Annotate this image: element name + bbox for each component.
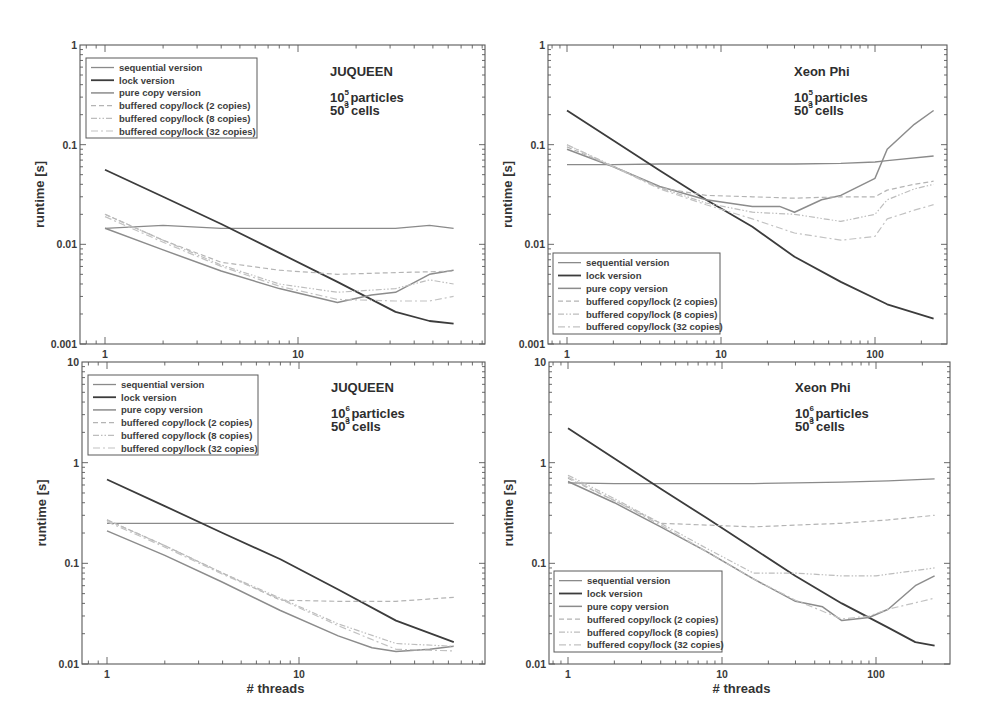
series-line-2 — [105, 228, 454, 302]
legend-label: buffered copy/lock (2 copies) — [121, 417, 252, 428]
y-axis-title: runtime [s] — [500, 161, 515, 228]
legend-label: buffered copy/lock (32 copies) — [587, 639, 724, 650]
legend-label: pure copy version — [586, 283, 668, 294]
panel-juqueen-1e5: 0.0010.010.11110runtime [s]sequential ve… — [32, 39, 485, 360]
panel-juqueen-1e6: 0.010.1110110runtime [s]# threadssequent… — [34, 356, 485, 696]
legend-label: sequential version — [587, 575, 671, 586]
panel-xeonphi-1e5: 0.0010.010.11110100runtime [s]sequential… — [500, 39, 947, 360]
x-axis-title: # threads — [247, 681, 305, 696]
series-line-0 — [105, 225, 454, 228]
panel-annotation: Xeon Phi1063particles503cells — [795, 380, 869, 434]
panel-xeonphi-1e6: 0.010.1110110100runtime [s]# threadssequ… — [501, 356, 950, 696]
y-tick-label: 10 — [67, 356, 79, 368]
y-axis-title: runtime [s] — [501, 479, 516, 546]
y-tick-label: 1 — [73, 457, 79, 469]
series-group — [105, 170, 454, 324]
legend-label: sequential version — [586, 257, 670, 268]
series-line-0 — [567, 156, 934, 165]
panel-annotation: Xeon Phi1053particles503cells — [794, 64, 868, 118]
legend: sequential versionlock versionpure copy … — [88, 375, 258, 455]
machine-name: JUQUEEN — [331, 380, 394, 395]
series-line-5 — [107, 522, 454, 651]
legend-label: lock version — [121, 392, 177, 403]
y-tick-label: 1 — [540, 457, 546, 469]
x-axis-title: # threads — [713, 681, 771, 696]
machine-name: Xeon Phi — [795, 380, 851, 395]
legend-label: buffered copy/lock (2 copies) — [587, 614, 718, 625]
machine-name: JUQUEEN — [330, 64, 393, 79]
legend-label: buffered copy/lock (32 copies) — [586, 321, 723, 332]
x-tick-label: 10 — [715, 348, 727, 360]
x-tick-label: 1 — [565, 668, 571, 680]
cells-label: 503cells — [330, 101, 380, 118]
cells-label: 503cells — [331, 417, 381, 434]
figure-canvas: 0.0010.010.11110runtime [s]sequential ve… — [0, 0, 987, 725]
series-line-2 — [107, 531, 454, 652]
y-tick-label: 0.1 — [62, 139, 77, 151]
legend: sequential versionlock versionpure copy … — [554, 571, 724, 652]
series-line-3 — [105, 214, 454, 274]
legend-label: buffered copy/lock (32 copies) — [121, 443, 258, 454]
y-tick-label: 0.1 — [531, 557, 546, 569]
x-tick-label: 10 — [716, 668, 728, 680]
legend: sequential versionlock versionpure copy … — [86, 58, 257, 138]
panel-annotation: JUQUEEN1053particles503cells — [330, 64, 404, 118]
y-tick-label: 0.001 — [51, 338, 77, 350]
x-tick-label: 100 — [867, 668, 885, 680]
legend-label: pure copy version — [119, 87, 201, 98]
series-line-4 — [567, 145, 934, 222]
legend-label: lock version — [586, 270, 642, 281]
y-tick-label: 0.01 — [59, 658, 80, 670]
x-tick-label: 100 — [866, 348, 884, 360]
y-tick-label: 0.01 — [57, 238, 78, 250]
y-tick-label: 0.01 — [525, 238, 546, 250]
legend-label: buffered copy/lock (8 copies) — [119, 113, 250, 124]
series-group — [107, 480, 454, 652]
legend-label: sequential version — [119, 62, 203, 73]
legend-label: buffered copy/lock (8 copies) — [586, 309, 717, 320]
x-tick-label: 10 — [293, 668, 305, 680]
legend-label: buffered copy/lock (8 copies) — [121, 430, 252, 441]
series-line-3 — [107, 520, 454, 601]
figure: 0.0010.010.11110runtime [s]sequential ve… — [0, 0, 987, 725]
x-tick-label: 10 — [292, 348, 304, 360]
y-tick-label: 0.1 — [64, 557, 79, 569]
series-line-4 — [107, 520, 454, 646]
legend: sequential versionlock versionpure copy … — [553, 253, 723, 334]
x-tick-label: 1 — [102, 348, 108, 360]
y-tick-label: 10 — [534, 356, 546, 368]
legend-label: buffered copy/lock (8 copies) — [587, 627, 718, 638]
legend-label: pure copy version — [587, 601, 669, 612]
legend-label: buffered copy/lock (2 copies) — [586, 296, 717, 307]
x-tick-label: 1 — [104, 668, 110, 680]
x-tick-label: 1 — [564, 348, 570, 360]
cells-label: 503cells — [795, 417, 845, 434]
y-tick-label: 0.01 — [526, 658, 547, 670]
series-line-1 — [107, 480, 454, 643]
series-line-3 — [567, 147, 934, 198]
legend-label: buffered copy/lock (32 copies) — [119, 126, 256, 137]
series-line-0 — [568, 479, 935, 484]
machine-name: Xeon Phi — [794, 64, 850, 79]
series-line-4 — [568, 475, 935, 576]
legend-label: sequential version — [121, 379, 205, 390]
panel-annotation: JUQUEEN1063particles503cells — [331, 380, 405, 434]
y-tick-label: 1 — [71, 39, 77, 51]
legend-label: buffered copy/lock (2 copies) — [119, 100, 250, 111]
y-axis-title: runtime [s] — [34, 479, 49, 546]
legend-label: lock version — [119, 75, 175, 86]
cells-label: 503cells — [794, 101, 844, 118]
y-axis-title: runtime [s] — [32, 161, 47, 228]
y-tick-label: 1 — [539, 39, 545, 51]
legend-label: pure copy version — [121, 404, 203, 415]
y-tick-label: 0.001 — [519, 338, 545, 350]
y-tick-label: 0.1 — [530, 139, 545, 151]
legend-label: lock version — [587, 588, 643, 599]
